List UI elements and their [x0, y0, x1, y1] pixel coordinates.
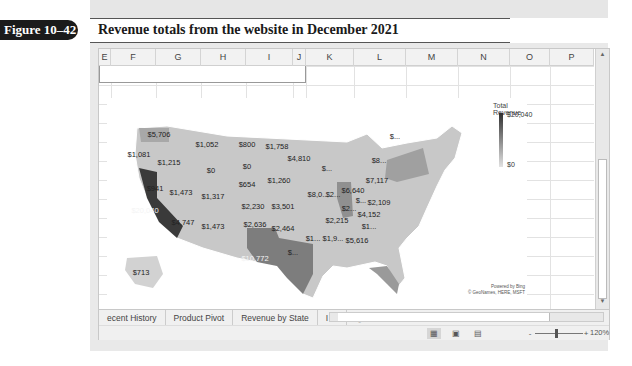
zoom-slider[interactable] — [535, 333, 583, 334]
column-header-n[interactable]: N — [458, 49, 510, 66]
state-label: $2,230 — [242, 202, 265, 211]
excel-window: E F G H I J K L M N O P — [98, 48, 610, 340]
state-label: $7,117 — [366, 176, 388, 185]
state-label: $4,810 — [288, 154, 311, 163]
map-credit-bing: Powered by Bing — [457, 284, 525, 289]
vertical-scrollbar[interactable]: ▲ ▼ — [595, 49, 609, 309]
normal-view-icon[interactable]: ▦ — [427, 328, 441, 339]
sheet-tab-revenue-by-state[interactable]: Revenue by State — [233, 310, 318, 326]
state-label: $1... — [362, 222, 377, 231]
column-header-o[interactable]: O — [510, 49, 550, 66]
state-label: $2,636 — [244, 220, 267, 229]
page-layout-icon[interactable]: ▣ — [449, 328, 463, 339]
state-label: $... — [288, 248, 298, 257]
state-label: $1,081 — [128, 150, 151, 159]
state-label: $5,616 — [346, 236, 369, 245]
column-header-e[interactable]: E — [99, 49, 111, 66]
column-header-k[interactable]: K — [306, 49, 354, 66]
merged-cell-range[interactable] — [99, 66, 306, 83]
column-header-j[interactable]: J — [293, 49, 306, 66]
column-header-m[interactable]: M — [406, 49, 458, 66]
state-label: $713 — [133, 268, 150, 277]
column-header-g[interactable]: G — [156, 49, 201, 66]
column-header-i[interactable]: I — [246, 49, 293, 66]
legend-max-label: $20,040 — [507, 111, 532, 118]
zoom-level[interactable]: 120% — [590, 328, 609, 337]
figure-title: Revenue totals from the website in Decem… — [98, 20, 399, 40]
state-label: $1,215 — [158, 158, 181, 167]
state-label: $1,758 — [266, 142, 289, 151]
state-label: $... — [390, 132, 400, 141]
state-label: $8... — [372, 156, 387, 165]
scroll-down-icon[interactable]: ▼ — [598, 297, 607, 306]
state-label: $1... — [306, 234, 321, 243]
column-header-f[interactable]: F — [111, 49, 156, 66]
state-label: $2,109 — [368, 198, 391, 207]
state-label: $20,040 — [131, 206, 158, 215]
state-label: $0 — [243, 162, 251, 171]
cell-grid[interactable]: $5,706 $1,081 $1,215 $1,052 $800 $1,758 … — [99, 66, 594, 309]
state-label: $0 — [207, 166, 215, 175]
page-break-preview-icon[interactable]: ▤ — [471, 328, 485, 339]
state-label: $4,747 — [172, 218, 195, 227]
column-header-l[interactable]: L — [354, 49, 406, 66]
state-label: $... — [322, 164, 332, 173]
state-label: $10,772 — [241, 254, 268, 263]
state-label: $1,473 — [170, 188, 193, 197]
state-label: $941 — [147, 184, 164, 193]
state-label: $2,464 — [272, 224, 295, 233]
horizontal-scroll-thumb[interactable] — [338, 313, 550, 321]
state-label: $1,473 — [202, 222, 225, 231]
state-label: $5,706 — [148, 130, 171, 139]
figure-rule-top — [90, 18, 510, 19]
top-gray-band — [90, 0, 608, 18]
column-header-p[interactable]: P — [550, 49, 594, 66]
state-label: $6,640 — [342, 186, 365, 195]
textbook-figure-page: Figure 10–42 Revenue totals from the web… — [0, 0, 632, 366]
sheet-tab-product-pivot[interactable]: Product Pivot — [166, 310, 234, 326]
column-header-h[interactable]: H — [201, 49, 246, 66]
state-label: $2,215 — [326, 216, 349, 225]
vertical-scroll-thumb[interactable] — [598, 159, 607, 299]
map-credit-geonames: © GeoNames, HERE, MSFT — [457, 290, 525, 295]
state-label: $3,501 — [272, 202, 295, 211]
state-label: $1,9... — [323, 234, 344, 243]
state-label: $1,317 — [202, 192, 225, 201]
state-label: $1,260 — [268, 176, 291, 185]
filled-map-chart[interactable]: $5,706 $1,081 $1,215 $1,052 $800 $1,758 … — [107, 98, 527, 309]
figure-label: Figure 10–42 — [0, 20, 78, 40]
state-label: $... — [356, 196, 366, 205]
zoom-slider-handle[interactable] — [555, 329, 558, 338]
scroll-up-icon[interactable]: ▲ — [598, 50, 607, 59]
legend-color-scale — [499, 113, 503, 167]
sheet-tab-recent-history[interactable]: ecent History — [99, 310, 166, 326]
state-label: $4,152 — [358, 210, 381, 219]
state-label: $800 — [239, 140, 256, 149]
legend-min-label: $0 — [507, 161, 515, 168]
state-label: $654 — [239, 180, 256, 189]
column-headers: E F G H I J K L M N O P — [99, 49, 594, 66]
state-label: $1,052 — [196, 140, 219, 149]
state-label: $2... — [342, 204, 357, 213]
status-bar: ▦ ▣ ▤ - + 120% — [99, 325, 609, 340]
horizontal-scrollbar[interactable] — [329, 312, 604, 322]
state-label: $2... — [326, 190, 341, 199]
